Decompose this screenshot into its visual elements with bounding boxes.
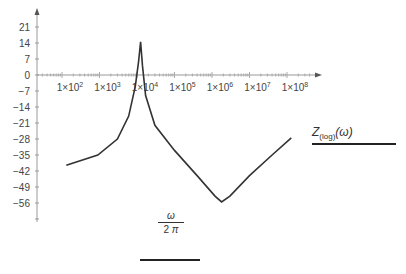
y-tick-label: 0 [24,70,30,81]
x-label-den-sym: π [172,224,179,235]
y-ticks: 211470−7−14−21−28−35−42−49−56 [13,22,39,219]
x-label-numerator: ω [158,210,184,223]
legend-label: Z(log)(ω) [312,125,353,141]
x-label-denominator: 2 π [140,223,202,235]
legend-line [312,143,396,145]
y-tick-label: −35 [13,150,30,161]
legend-arg: (ω) [335,125,352,139]
x-tick-label: 1×102 [57,81,84,93]
legend-sub: (log) [319,132,335,141]
y-tick-label: −49 [13,182,30,193]
x-tick-label: 1×105 [169,81,196,93]
y-tick-label: −14 [13,102,30,113]
y-tick-label: −42 [13,166,30,177]
y-tick-label: 21 [19,22,31,33]
x-tick-label: 1×103 [94,81,121,93]
y-axis-arrow-icon [35,8,40,15]
x-tick-label: 1×108 [282,81,309,93]
series-line [66,42,291,202]
x-label-den-num: 2 [163,224,169,235]
y-tick-label: −28 [13,134,30,145]
x-tick-label: 1×107 [244,81,271,93]
x-axis-label: ω 2 π [140,210,202,235]
y-tick-label: −56 [13,198,30,209]
y-tick-label: 7 [24,54,30,65]
y-tick-label: 14 [19,38,31,49]
y-tick-label: −7 [19,86,31,97]
x-tick-label: 1×106 [207,81,234,93]
y-tick-label: −21 [13,118,30,129]
x-label-underline [140,259,200,261]
x-axis-arrow-icon [315,73,322,78]
